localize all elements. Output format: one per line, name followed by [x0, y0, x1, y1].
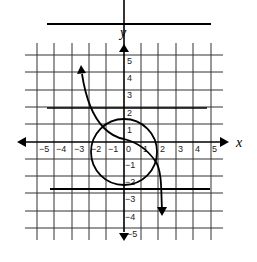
- svg-text:0: 0: [126, 144, 131, 154]
- svg-text:−3: −3: [125, 194, 135, 204]
- svg-text:5: 5: [127, 56, 132, 66]
- x-axis-right-arrow-icon: [220, 137, 229, 147]
- svg-text:−4: −4: [125, 212, 135, 222]
- svg-text:−5: −5: [127, 229, 137, 239]
- y-axis-label: y: [118, 25, 127, 40]
- svg-text:−4: −4: [56, 144, 66, 154]
- svg-text:1: 1: [127, 125, 132, 135]
- svg-text:4: 4: [195, 144, 200, 154]
- y-axis-up-arrow-icon: [119, 44, 129, 52]
- x-tick-labels: −5 −4 −3 −2 −1 0 1 2 3 4 5: [39, 144, 217, 154]
- svg-text:3: 3: [178, 144, 183, 154]
- coordinate-graph: y x −5 −4 −3 −2 −1 0 1 2 3 4 5 5 4 3 2 1…: [0, 0, 257, 262]
- svg-text:5: 5: [212, 144, 217, 154]
- x-axis-left-arrow-icon: [17, 137, 26, 147]
- svg-text:−1: −1: [125, 160, 135, 170]
- svg-text:2: 2: [160, 144, 165, 154]
- svg-text:−5: −5: [39, 144, 49, 154]
- svg-text:−3: −3: [74, 144, 84, 154]
- svg-text:−1: −1: [108, 144, 118, 154]
- x-axis-label: x: [235, 135, 243, 150]
- curve-start-arrow-icon: [77, 65, 86, 74]
- svg-text:2: 2: [127, 108, 132, 118]
- svg-text:4: 4: [127, 73, 132, 83]
- svg-text:3: 3: [127, 90, 132, 100]
